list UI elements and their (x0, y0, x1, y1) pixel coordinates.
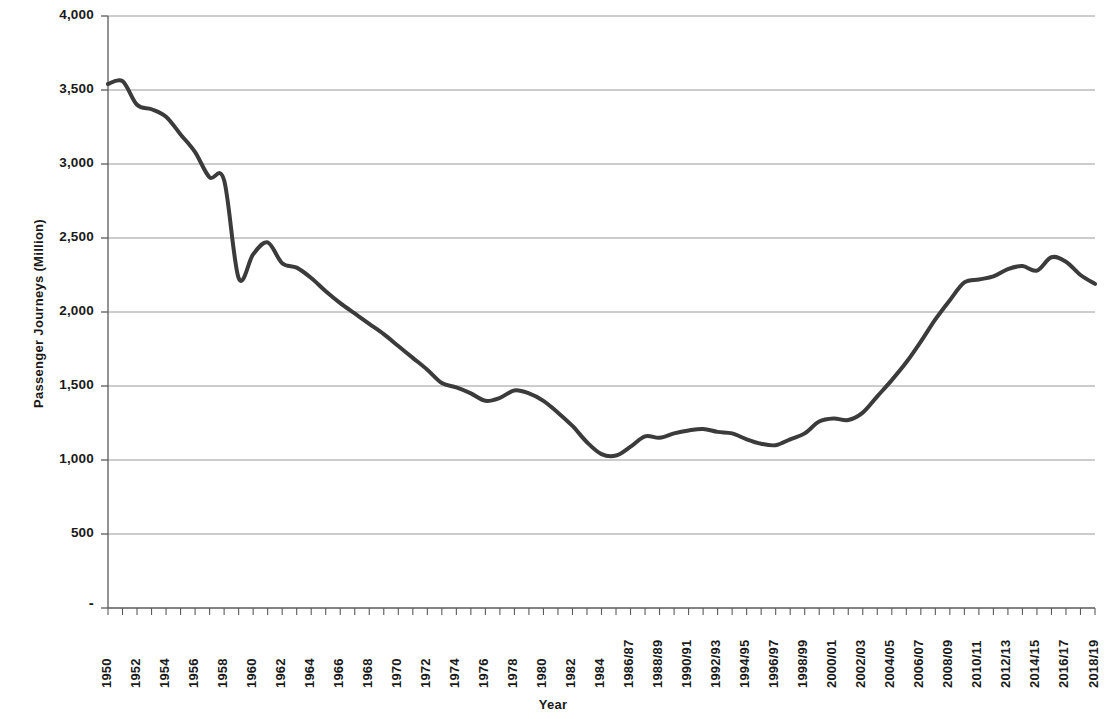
data-series-line (108, 80, 1095, 456)
y-tick-label: 500 (0, 525, 94, 540)
x-axis-title: Year (0, 697, 1106, 712)
y-tick-marks-group (101, 16, 108, 608)
y-tick-label: 3,500 (0, 81, 94, 96)
y-axis-title: Passenger Journeys (Million) (31, 184, 46, 444)
line-chart-figure: -5001,0001,5002,0002,5003,0003,5004,000 … (0, 0, 1106, 719)
y-tick-label: 4,000 (0, 7, 94, 22)
y-tick-label: 3,000 (0, 155, 94, 170)
y-tick-label: 2,500 (0, 229, 94, 244)
x-tick-marks-group (108, 608, 1095, 615)
y-tick-label: - (0, 594, 94, 611)
y-tick-label: 1,500 (0, 377, 94, 392)
gridlines-group (108, 16, 1095, 534)
y-tick-label: 1,000 (0, 451, 94, 466)
y-tick-label: 2,000 (0, 303, 94, 318)
chart-plot-area (0, 0, 1106, 719)
